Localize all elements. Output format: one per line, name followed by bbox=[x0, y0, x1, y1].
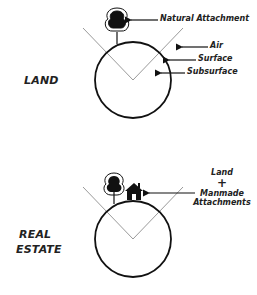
label-attachments: Attachments bbox=[193, 198, 251, 207]
real-estate-diagram bbox=[83, 173, 195, 277]
house-icon bbox=[125, 183, 143, 200]
label-natural-attachment: Natural Attachment bbox=[160, 14, 249, 23]
land-diagram bbox=[83, 8, 208, 118]
plus-sign: + bbox=[196, 176, 248, 190]
title-estate: ESTATE bbox=[16, 243, 62, 256]
cone-right-line bbox=[133, 28, 183, 80]
title-land: LAND bbox=[24, 74, 59, 87]
title-real: REAL bbox=[19, 228, 51, 241]
label-subsurface: Subsurface bbox=[187, 67, 238, 76]
tree-icon bbox=[105, 8, 128, 44]
label-manmade: Manmade bbox=[196, 189, 248, 198]
label-air: Air bbox=[210, 41, 223, 50]
cone-left-line bbox=[83, 28, 133, 80]
label-surface: Surface bbox=[198, 54, 232, 63]
tree-icon bbox=[104, 173, 124, 204]
